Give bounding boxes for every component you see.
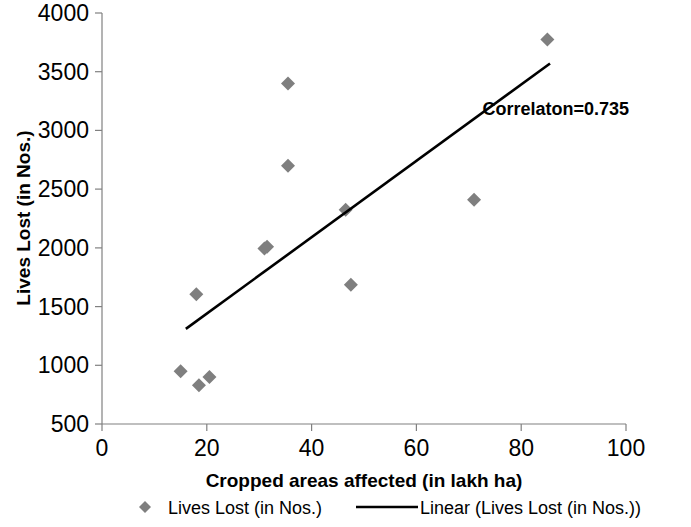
chart-legend: Lives Lost (in Nos.) Linear (Lives Lost … bbox=[139, 498, 641, 518]
x-axis-ticks bbox=[102, 424, 626, 431]
legend-label-trendline: Linear (Lives Lost (in Nos.)) bbox=[420, 498, 641, 518]
x-tick-label: 20 bbox=[194, 435, 220, 461]
chart-canvas: 4000 3500 3000 2500 2000 1500 1000 500 0… bbox=[0, 0, 691, 527]
x-tick-label: 0 bbox=[96, 435, 109, 461]
y-tick-label: 1000 bbox=[38, 352, 89, 378]
correlation-annotation: Correlaton=0.735 bbox=[482, 99, 629, 119]
data-point-marker bbox=[174, 364, 188, 378]
data-point-marker bbox=[467, 193, 481, 207]
y-tick-label: 3500 bbox=[38, 59, 89, 85]
data-point-marker bbox=[540, 32, 554, 46]
data-point-marker bbox=[344, 278, 358, 292]
data-point-marker bbox=[202, 370, 216, 384]
y-axis-ticks bbox=[95, 13, 102, 424]
x-tick-label: 40 bbox=[299, 435, 325, 461]
data-point-marker bbox=[192, 378, 206, 392]
data-point-group bbox=[174, 32, 555, 392]
x-axis-title: Cropped areas affected (in lakh ha) bbox=[206, 470, 523, 491]
y-axis-tick-labels: 4000 3500 3000 2500 2000 1500 1000 500 bbox=[38, 0, 89, 437]
y-tick-label: 500 bbox=[51, 411, 89, 437]
y-tick-label: 4000 bbox=[38, 0, 89, 26]
x-tick-label: 60 bbox=[404, 435, 430, 461]
y-axis-title: Lives Lost (in Nos.) bbox=[13, 130, 34, 305]
y-tick-label: 2000 bbox=[38, 235, 89, 261]
y-tick-label: 3000 bbox=[38, 117, 89, 143]
data-point-marker bbox=[281, 76, 295, 90]
data-point-marker bbox=[189, 287, 203, 301]
scatter-chart: 4000 3500 3000 2500 2000 1500 1000 500 0… bbox=[0, 0, 691, 527]
x-axis-tick-labels: 0 20 40 60 80 100 bbox=[96, 435, 646, 461]
data-point-marker bbox=[281, 159, 295, 173]
legend-label-series: Lives Lost (in Nos.) bbox=[168, 498, 322, 518]
y-tick-label: 1500 bbox=[38, 294, 89, 320]
legend-diamond-icon bbox=[139, 501, 151, 513]
y-tick-label: 2500 bbox=[38, 176, 89, 202]
x-tick-label: 80 bbox=[508, 435, 534, 461]
x-tick-label: 100 bbox=[607, 435, 645, 461]
